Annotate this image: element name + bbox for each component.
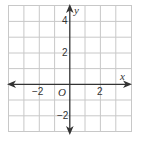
x-axis-label: x [120, 71, 125, 82]
origin-label: O [58, 87, 66, 98]
y-axis-label: y [74, 5, 79, 16]
y-tick-label-pos2: 2 [62, 48, 68, 58]
x-tick-label-neg2: −2 [32, 87, 43, 97]
x-tick-label-pos2: 2 [97, 87, 103, 97]
y-tick-label-neg2: −2 [57, 111, 68, 121]
y-tick-label-pos4: 4 [62, 16, 68, 26]
